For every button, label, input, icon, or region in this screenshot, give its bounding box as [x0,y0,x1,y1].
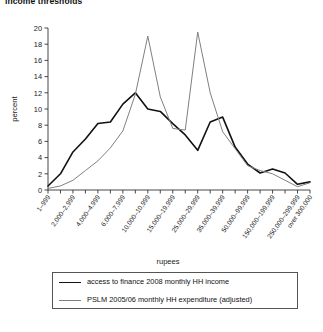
svg-text:20: 20 [34,24,42,33]
svg-text:18: 18 [34,40,42,49]
svg-text:6: 6 [38,137,42,146]
svg-text:10: 10 [34,105,42,114]
chart-figure: income thresholds 02468101214161820 1–99… [0,0,323,332]
svg-text:1–999: 1–999 [35,193,51,212]
axis-titles: percentrupees [10,95,180,266]
svg-text:4: 4 [38,153,42,162]
svg-text:2,000–2,999: 2,000–2,999 [50,193,77,227]
data-series-group [48,32,310,188]
chart-plot-area: 02468101214161820 1–9992,000–2,9994,000–… [0,0,323,268]
svg-text:8: 8 [38,121,42,130]
svg-text:rupees: rupees [156,257,179,266]
legend-label-series-1: access to finance 2008 monthly HH income [87,278,229,285]
chart-legend: access to finance 2008 monthly HH income… [52,272,298,309]
svg-text:0: 0 [38,186,42,195]
legend-line-icon-series-2 [59,300,81,301]
legend-label-series-2: PSLM 2005/06 monthly HH expenditure (adj… [87,296,252,303]
legend-item-access-to-finance: access to finance 2008 monthly HH income [53,273,297,291]
svg-text:percent: percent [10,95,19,121]
legend-line-icon-series-1 [59,282,81,283]
y-axis: 02468101214161820 [34,24,48,195]
svg-text:16: 16 [34,56,42,65]
svg-text:6,000–7,999: 6,000–7,999 [99,193,126,227]
svg-text:4,000–4,999: 4,000–4,999 [74,193,101,227]
legend-item-pslm: PSLM 2005/06 monthly HH expenditure (adj… [53,291,297,309]
x-axis: 1–9992,000–2,9994,000–4,9996,000–7,99910… [35,190,313,240]
svg-text:14: 14 [34,72,42,81]
svg-text:12: 12 [34,89,42,98]
svg-text:2: 2 [38,170,42,179]
